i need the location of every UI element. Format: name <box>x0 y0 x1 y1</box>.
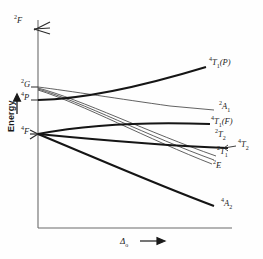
delta-right-arrow-icon <box>140 238 165 245</box>
term-label-4p: 4P <box>21 93 29 102</box>
term-label-2t1: 2T1 <box>217 147 228 156</box>
curve-4T1F <box>38 123 210 134</box>
term-label-2e: 2E <box>213 161 221 170</box>
term-4t1f-paren: (F) <box>222 116 233 126</box>
curves-thick <box>38 67 228 206</box>
curve-4A2 <box>38 134 214 206</box>
y-axis-title: Energy <box>6 100 16 132</box>
term-label-4t1p: 4T1(P) <box>209 58 231 67</box>
term-label-4t1f: 4T1(F) <box>211 117 233 126</box>
term-2a1-subscript: 1 <box>227 107 230 113</box>
term-2f-letter: F <box>17 15 22 25</box>
term-2e-letter: E <box>216 160 221 170</box>
term-2g-letter: G <box>24 79 30 89</box>
term-2t1-subscript: 1 <box>225 152 228 158</box>
axis-break-chevron-icon <box>34 22 50 34</box>
term-label-2a1: 2A1 <box>219 102 230 111</box>
term-4t1p-paren: (P) <box>220 57 231 67</box>
term-label-4a2: 4A2 <box>221 199 232 208</box>
term-label-2f: 2F <box>14 16 22 25</box>
x-axis-title: Δo <box>120 236 128 246</box>
term-label-4t2: 4T2 <box>238 140 249 149</box>
energy-level-diagram-figure: Energy Δo 2F 2G 4P 4F 4T1(P) 2A1 4T1(F) … <box>0 0 263 259</box>
curve-4T1P <box>38 67 206 100</box>
term-4t2-subscript: 2 <box>246 145 249 151</box>
term-4a2-subscript: 2 <box>229 204 232 210</box>
curve-2E <box>38 90 212 164</box>
term-label-2g: 2G <box>21 80 30 89</box>
term-label-4f: 4F <box>21 127 29 136</box>
term-label-2t2: 2T2 <box>215 130 226 139</box>
term-2t2-subscript: 2 <box>223 135 226 141</box>
term-4f-letter: F <box>24 126 29 136</box>
x-axis-subscript: o <box>125 242 128 248</box>
term-4p-letter: P <box>24 92 29 102</box>
term-tick-4f-icon <box>30 130 38 139</box>
